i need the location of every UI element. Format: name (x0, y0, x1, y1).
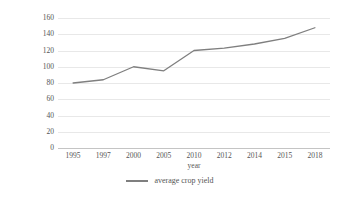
x-tick-label: 2018 (298, 151, 332, 161)
x-axis-line (58, 148, 330, 149)
y-tick-label: 100 (28, 63, 54, 71)
plot-area (58, 18, 330, 148)
y-tick-label: 20 (28, 128, 54, 136)
data-series-average-crop-yield (58, 18, 330, 148)
y-axis-tick-labels: 020406080100120140160 (28, 18, 54, 148)
x-tick-label: 2012 (207, 151, 241, 161)
x-tick-label: 2000 (117, 151, 151, 161)
x-tick-label: 2015 (268, 151, 302, 161)
line-marker-icon (126, 180, 148, 182)
x-tick-label: 1995 (56, 151, 90, 161)
line-chart-figure: average crop-paddy field 020406080100120… (0, 0, 340, 202)
x-tick-label: 1997 (86, 151, 120, 161)
x-tick-label: 2010 (177, 151, 211, 161)
series-line-average-crop-yield (73, 28, 315, 83)
y-tick-label: 140 (28, 30, 54, 38)
x-tick-label: 2014 (237, 151, 271, 161)
legend-item-label: average crop yield (154, 176, 213, 186)
y-tick-label: 120 (28, 47, 54, 55)
x-axis-title: year (58, 161, 330, 171)
x-tick-label: 2005 (147, 151, 181, 161)
y-tick-label: 0 (28, 144, 54, 152)
y-tick-label: 60 (28, 95, 54, 103)
y-tick-label: 80 (28, 79, 54, 87)
y-tick-label: 40 (28, 112, 54, 120)
chart-legend: average crop yield (0, 176, 340, 186)
y-tick-label: 160 (28, 14, 54, 22)
